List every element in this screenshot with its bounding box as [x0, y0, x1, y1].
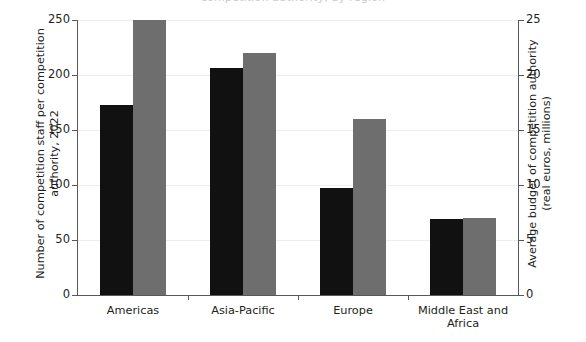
bar-budget: [243, 53, 276, 295]
category-label: Europe: [298, 304, 408, 317]
right-axis-tick-label: 15: [526, 124, 586, 135]
category-label: Middle East and Africa: [408, 304, 518, 330]
right-axis-title: Average budget of competition authority …: [526, 19, 553, 289]
bar-staff: [100, 105, 133, 295]
plot-area: 0501001502002500510152025 AmericasAsia-P…: [78, 20, 518, 295]
bar-staff: [320, 188, 353, 295]
left-axis-tick-label: 0: [10, 289, 70, 300]
right-axis-line: [518, 20, 519, 296]
left-axis-tick-label: 200: [10, 69, 70, 80]
bar-staff: [430, 219, 463, 295]
x-axis-tick: [298, 295, 299, 300]
right-axis-tick: [519, 75, 524, 76]
right-axis-tick-label: 0: [526, 289, 586, 300]
right-axis-tick: [519, 130, 524, 131]
left-axis-tick: [72, 75, 77, 76]
left-axis-tick-label: 100: [10, 179, 70, 190]
right-axis-tick: [519, 240, 524, 241]
left-axis-tick: [72, 20, 77, 21]
left-axis-tick: [72, 295, 77, 296]
bar-staff: [210, 68, 243, 295]
left-axis-tick: [72, 185, 77, 186]
category-label: Americas: [78, 304, 188, 317]
chart-figure: competition authority, by region Number …: [0, 0, 586, 342]
category-label: Asia-Pacific: [188, 304, 298, 317]
left-axis-tick: [72, 240, 77, 241]
right-axis-tick-label: 25: [526, 14, 586, 25]
right-axis-tick: [519, 295, 524, 296]
bar-budget: [133, 20, 166, 295]
bar-budget: [353, 119, 386, 295]
left-axis-tick-label: 150: [10, 124, 70, 135]
right-axis-tick-label: 20: [526, 69, 586, 80]
left-axis-line: [77, 20, 78, 296]
right-axis-tick: [519, 185, 524, 186]
left-axis-tick: [72, 130, 77, 131]
left-axis-tick-label: 50: [10, 234, 70, 245]
left-axis-title: Number of competition staff per competit…: [34, 19, 61, 289]
right-axis-tick-label: 5: [526, 234, 586, 245]
left-axis-tick-label: 250: [10, 14, 70, 25]
right-axis-tick-label: 10: [526, 179, 586, 190]
right-axis-tick: [519, 20, 524, 21]
bar-budget: [463, 218, 496, 295]
x-axis-tick: [408, 295, 409, 300]
cut-off-title: competition authority, by region: [0, 0, 586, 5]
x-axis-tick: [188, 295, 189, 300]
